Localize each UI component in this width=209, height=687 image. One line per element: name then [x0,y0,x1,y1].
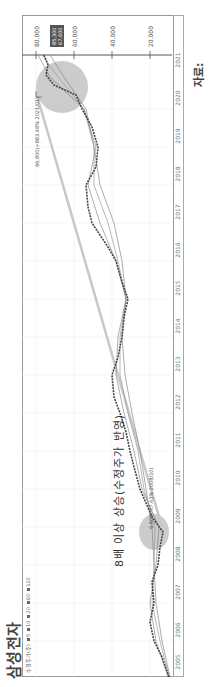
x-tick: 2011 [174,432,181,447]
x-tick: 2015 [174,280,181,295]
x-tick: 2018 [174,166,181,181]
legend-item-ma10: 10 [25,621,31,631]
ma20-line [38,55,168,677]
high-point-annotation: 96,800(+883.48% 2021/01) [34,97,40,167]
y-tick-20000: 20,000 [147,26,154,47]
x-tick: 2021 [174,52,181,67]
legend-item-ma5: 5 [25,634,31,641]
current-price-box: 85,300 67,600 [50,26,64,48]
low-point-annotation: 9,800(-47.43% 2008/10) [148,468,154,529]
x-tick: 2016 [174,242,181,257]
x-tick: 2008 [174,546,181,561]
x-tick: 2005 [174,654,181,669]
legend-item-ma20: 20 [25,607,31,617]
y-tick-60000: 60,000 [71,26,78,47]
trend-line [36,92,162,527]
x-tick: 2012 [174,394,181,409]
legend-item-ma60: 60 [25,594,31,604]
growth-annotation: 8배 이상 상승(수정주가 반영) [110,414,126,567]
x-tick: 2009 [174,508,181,523]
x-tick: 2006 [174,622,181,637]
x-tick: 2019 [174,128,181,143]
x-tick: 2017 [174,204,181,219]
chart-legend: 수정주가(주) 5 10 20 60 120 [24,577,31,673]
x-tick: 2007 [174,584,181,599]
legend-item-ma120: 120 [25,577,31,591]
y-tick-80000: 80,000 [33,26,40,47]
chart-title: 삼성전자 [2,621,23,679]
source-footer: 자료: [190,63,206,87]
x-tick: 2014 [174,318,181,333]
y-tick-40000: 40,000 [109,26,116,47]
legend-label: 수정주가(주) [24,644,31,673]
x-tick: 2020 [174,90,181,105]
current-price-line2: 67,600 [57,28,63,46]
x-tick: 2013 [174,356,181,371]
grid-lines [22,55,172,677]
x-axis: 2005 2006 2007 2008 2009 2010 2011 2012 … [173,15,184,677]
price-chart [22,17,172,677]
x-tick: 2010 [174,470,181,485]
chart-stage: 삼성전자 [0,0,209,687]
